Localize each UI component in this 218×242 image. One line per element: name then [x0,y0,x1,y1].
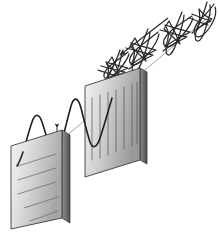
polarizer-filter-vertical[interactable] [85,68,147,177]
filter-edge [62,130,70,223]
polarization-figure: Polarization of light by two polarizing … [0,0,218,242]
filter-edge [140,68,147,164]
polarizer-filter-horizontal[interactable] [11,130,70,229]
polarization-diagram [0,0,218,242]
